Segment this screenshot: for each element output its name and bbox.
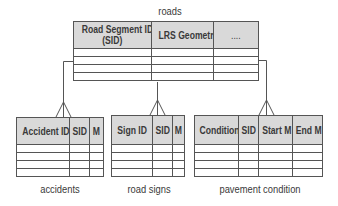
column-header-sid: SID [153,116,173,145]
entity-title-pavement-condition: pavement condition [218,183,303,195]
column-header-ellipsis: .... [214,22,259,49]
column-header-road-segment-id: Road Segment ID (SID) [74,22,152,49]
entity-title-road-signs: road signs [119,183,179,195]
column-header-start-m: Start M [259,116,293,145]
column-header-condition: Condition [195,116,239,145]
entity-title-accidents: accidents [26,183,94,195]
entity-pavement-condition: Condition SID Start M End M [194,115,323,177]
connector-roads-accidents [64,62,74,118]
entity-roads: Road Segment ID (SID) LRS Geometry .... [73,21,259,81]
column-header-m: M [173,116,185,145]
entity-road-signs: Sign ID SID M [111,115,185,177]
column-header-accident-id: Accident ID [17,118,70,145]
column-header-m: M [90,118,104,145]
column-header-lrs-geometry: LRS Geometry [152,22,214,49]
entity-title-roads: roads [149,5,192,17]
column-header-sid: SID [239,116,259,145]
entity-accidents: Accident ID SID M [16,117,104,177]
column-header-sign-id: Sign ID [112,116,153,145]
column-header-sid: SID [70,118,90,145]
column-header-end-m: End M [293,116,323,145]
